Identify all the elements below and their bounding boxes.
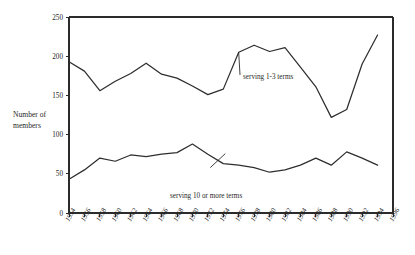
x-tick-label: 1990 xyxy=(341,206,355,223)
x-tick-label: 1960 xyxy=(110,206,124,223)
x-tick-label: 1980 xyxy=(264,206,278,223)
y-tick-label: 150 xyxy=(52,92,63,100)
x-tick-label: 1984 xyxy=(295,206,309,223)
annotation-leader-lower xyxy=(210,154,225,168)
y-tick-label: 0 xyxy=(59,210,63,218)
x-tick-label: 1958 xyxy=(95,206,109,223)
y-axis-title-group: Number of members xyxy=(13,110,47,130)
plot-frame xyxy=(69,17,393,213)
annotation-leader-upper xyxy=(239,52,240,75)
x-tick-label: 1992 xyxy=(357,206,371,223)
y-tick-label: 50 xyxy=(56,170,64,178)
x-axis-tick-labels: 1954195619581960196219641966196819701972… xyxy=(64,206,402,223)
y-axis-tick-labels: 050100150200250 xyxy=(52,14,63,218)
x-tick-label: 1994 xyxy=(372,206,386,223)
x-tick-label: 1956 xyxy=(79,206,93,223)
x-tick-label: 1988 xyxy=(326,206,340,223)
x-tick-label: 1982 xyxy=(280,206,294,223)
x-tick-label: 1978 xyxy=(249,206,263,223)
annotation-group: serving 1-3 termsserving 10 or more term… xyxy=(170,52,294,200)
annotation-label-serving-10-or-more-terms: serving 10 or more terms xyxy=(170,192,242,200)
series-line-1 xyxy=(69,35,378,117)
x-tick-label: 1976 xyxy=(233,206,247,223)
x-tick-label: 1962 xyxy=(125,206,139,223)
x-tick-label: 1972 xyxy=(203,206,217,223)
y-tick-label: 250 xyxy=(52,14,63,22)
x-tick-label: 1996 xyxy=(388,206,402,223)
chart-page: 050100150200250 195419561958196019621964… xyxy=(0,0,415,255)
x-tick-label: 1970 xyxy=(187,206,201,223)
series-line-2 xyxy=(69,144,378,179)
x-tick-label: 1986 xyxy=(311,206,325,223)
x-tick-label: 1974 xyxy=(218,206,232,223)
y-axis-title-line-1: Number of xyxy=(13,110,47,119)
x-tick-label: 1966 xyxy=(156,206,170,223)
y-tick-label: 100 xyxy=(52,131,63,139)
data-series-group xyxy=(69,35,378,179)
x-tick-label: 1954 xyxy=(64,206,78,223)
line-chart: 050100150200250 195419561958196019621964… xyxy=(0,0,415,255)
x-tick-label: 1964 xyxy=(141,206,155,223)
x-tick-label: 1968 xyxy=(172,206,186,223)
y-axis-title-line-2: members xyxy=(13,121,41,130)
y-tick-label: 200 xyxy=(52,53,63,61)
annotation-label-serving-1-3-terms: serving 1-3 terms xyxy=(243,73,294,81)
